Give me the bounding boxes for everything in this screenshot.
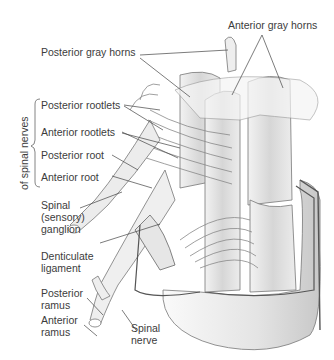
label-posterior-rootlets: Posterior rootlets bbox=[41, 99, 120, 111]
spinal-nerve-bracket bbox=[31, 99, 40, 187]
label-line: (sensory) bbox=[41, 211, 85, 223]
label-posterior-root: Posterior root bbox=[41, 149, 104, 161]
label-line: Spinal bbox=[41, 199, 85, 211]
label-line: Denticulate bbox=[41, 250, 94, 262]
label-line: Posterior bbox=[41, 287, 83, 299]
dura-mater bbox=[163, 180, 320, 350]
label-line: Spinal bbox=[131, 322, 160, 334]
label-anterior-ramus: Anterior ramus bbox=[41, 314, 78, 338]
spinal-cord bbox=[175, 37, 318, 292]
label-line: ramus bbox=[41, 299, 83, 311]
label-line: ligament bbox=[41, 262, 94, 274]
label-denticulate-ligament: Denticulate ligament bbox=[41, 250, 94, 274]
label-anterior-gray-horns: Anterior gray horns bbox=[228, 19, 317, 31]
label-line: Anterior bbox=[41, 314, 78, 326]
label-posterior-ramus: Posterior ramus bbox=[41, 287, 83, 311]
label-anterior-rootlets: Anterior rootlets bbox=[41, 126, 115, 138]
label-anterior-root: Anterior root bbox=[41, 171, 99, 183]
label-spinal-nerve: Spinal nerve bbox=[131, 322, 160, 346]
label-posterior-gray-horns: Posterior gray horns bbox=[41, 46, 136, 58]
label-line: nerve bbox=[131, 334, 160, 346]
denticulate-ligament bbox=[135, 215, 200, 296]
bracket-label: of spinal nerves bbox=[18, 116, 30, 190]
label-spinal-ganglion: Spinal (sensory) ganglion bbox=[41, 199, 85, 235]
label-line: ganglion bbox=[41, 223, 85, 235]
label-line: ramus bbox=[41, 326, 78, 338]
